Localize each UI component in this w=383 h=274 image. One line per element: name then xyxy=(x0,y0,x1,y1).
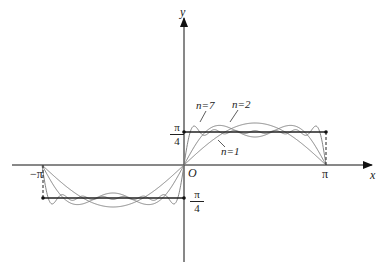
tick-neg-pi-over-4: π4 xyxy=(190,189,204,214)
plot-area xyxy=(0,0,383,274)
x-axis-label: x xyxy=(370,169,375,181)
tick-pi: π xyxy=(322,168,328,180)
tick-pi-over-4: π4 xyxy=(170,122,184,147)
origin-label: O xyxy=(188,167,197,179)
y-axis-label: y xyxy=(180,6,185,18)
label-n1: n=1 xyxy=(221,146,239,157)
label-n7: n=7 xyxy=(196,100,214,111)
tick-neg-pi: −π xyxy=(30,168,43,180)
label-n2: n=2 xyxy=(232,99,250,110)
fourier-diagram: y x O π −π π4 π4 n=7 n=2 n=1 xyxy=(0,0,383,274)
